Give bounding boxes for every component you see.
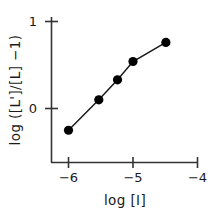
x-tick-label-minus6: −6 xyxy=(59,170,78,185)
chart-plot-area: 1 0 −6 −5 −4 log [I] log ([L']/[L] −1) xyxy=(0,0,215,213)
data-point-marker xyxy=(64,126,73,135)
x-tick-label-minus5: −5 xyxy=(123,170,142,185)
y-tick-label-1: 1 xyxy=(29,14,37,29)
data-point-marker xyxy=(94,95,103,104)
y-tick-label-0: 0 xyxy=(29,101,37,116)
x-tick-label-minus4: −4 xyxy=(188,170,207,185)
data-point-marker xyxy=(161,38,170,47)
data-point-marker xyxy=(113,75,122,84)
series-line xyxy=(69,42,166,130)
series-markers xyxy=(64,38,171,135)
axis-spines xyxy=(51,17,198,163)
x-axis-title: log [I] xyxy=(104,192,146,208)
y-axis-title: log ([L']/[L] −1) xyxy=(7,35,23,146)
chart-figure: 1 0 −6 −5 −4 log [I] log ([L']/[L] −1) xyxy=(0,0,215,213)
data-point-marker xyxy=(128,57,137,66)
